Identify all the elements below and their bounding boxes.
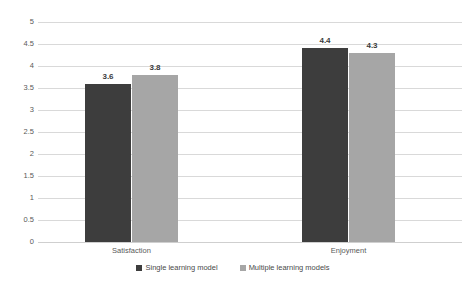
bar-chart: 54.543.532.521.510.50 3.63.84.44.3 Satis…	[0, 0, 466, 284]
gridline-4	[38, 66, 462, 67]
y-axis-tick-label: 3.5	[4, 84, 34, 92]
legend-swatch-icon	[240, 265, 246, 271]
bar-value-label-enjoyment-single: 4.4	[302, 37, 348, 45]
plot-area: 3.63.84.44.3	[38, 22, 462, 242]
y-axis-tick-label: 0.5	[4, 216, 34, 224]
legend-item-label: Multiple learning models	[249, 264, 330, 272]
bar-value-label-enjoyment-multiple: 4.3	[349, 42, 395, 50]
bar-satisfaction-multiple	[132, 75, 178, 242]
y-axis-tick-label: 1.5	[4, 172, 34, 180]
y-axis-tick-label: 4	[4, 62, 34, 70]
y-axis-tick-label: 4.5	[4, 40, 34, 48]
bar-enjoyment-multiple	[349, 53, 395, 242]
y-axis-tick-label: 3	[4, 106, 34, 114]
legend-item[interactable]: Single learning model	[136, 264, 217, 272]
legend-item-label: Single learning model	[145, 264, 217, 272]
y-axis-tick-label: 2.5	[4, 128, 34, 136]
y-axis-tick-label: 5	[4, 18, 34, 26]
gridline-4-5	[38, 44, 462, 45]
legend-item[interactable]: Multiple learning models	[240, 264, 330, 272]
x-axis-tick-label: Satisfaction	[62, 247, 202, 255]
bar-satisfaction-single	[85, 84, 131, 242]
legend-swatch-icon	[136, 265, 142, 271]
y-axis-tick-label: 2	[4, 150, 34, 158]
x-axis-tick-label: Enjoyment	[279, 247, 419, 255]
bar-enjoyment-single	[302, 48, 348, 242]
bar-value-label-satisfaction-multiple: 3.8	[132, 64, 178, 72]
chart-legend: Single learning modelMultiple learning m…	[0, 264, 466, 272]
bar-value-label-satisfaction-single: 3.6	[85, 73, 131, 81]
gridline-5	[38, 22, 462, 23]
y-axis-tick-label: 0	[4, 238, 34, 246]
gridline-0	[38, 242, 462, 243]
y-axis-tick-label: 1	[4, 194, 34, 202]
